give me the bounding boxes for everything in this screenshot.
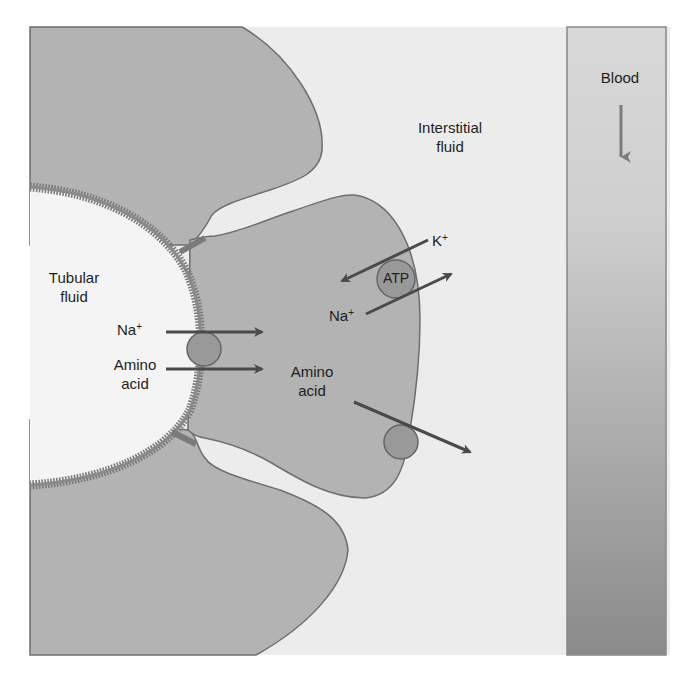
amino-acid-cell-line-1: Amino <box>283 362 341 381</box>
blood-vessel <box>567 27 666 655</box>
k-symbol: K <box>432 232 442 249</box>
diagram-canvas <box>0 0 698 675</box>
na-amino-acid-cotransporter <box>187 332 221 366</box>
tubular-fluid-label: Tubular fluid <box>38 268 110 306</box>
amino-acid-lumen-line-2: acid <box>106 374 164 393</box>
na-pump-charge: + <box>348 307 354 318</box>
k-charge: + <box>442 232 448 243</box>
interstitial-fluid-line-1: Interstitial <box>410 118 490 137</box>
tubular-fluid-line-1: Tubular <box>38 268 110 287</box>
proximal-tubule-amino-acid-transport-diagram: Tubular fluid Interstitial fluid Blood N… <box>0 0 698 675</box>
tubular-fluid-line-2: fluid <box>38 287 110 306</box>
blood-label: Blood <box>590 68 650 87</box>
na-pump-symbol: Na <box>329 307 348 324</box>
amino-acid-lumen-line-1: Amino <box>106 355 164 374</box>
interstitial-fluid-label: Interstitial fluid <box>410 118 490 156</box>
na-pump-label: Na+ <box>329 306 354 325</box>
interstitial-fluid-line-2: fluid <box>410 137 490 156</box>
na-apical-symbol: Na <box>117 321 136 338</box>
atp-label: ATP <box>376 270 416 286</box>
amino-acid-cell-line-2: acid <box>283 381 341 400</box>
basolateral-amino-acid-transporter <box>384 425 418 459</box>
amino-acid-cell-label: Amino acid <box>283 362 341 400</box>
amino-acid-lumen-label: Amino acid <box>106 355 164 393</box>
k-label: K+ <box>432 231 448 250</box>
na-apical-charge: + <box>136 321 142 332</box>
na-apical-label: Na+ <box>117 320 142 339</box>
